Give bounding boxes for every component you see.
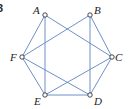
edge-b-f [22, 15, 90, 57]
vertex-label-e: E [33, 95, 41, 107]
vertex-e [43, 93, 47, 97]
vertex-label-c: C [115, 51, 123, 63]
edges-group [22, 15, 112, 95]
vertex-label-a: A [32, 4, 40, 16]
vertex-label-d: D [93, 95, 102, 107]
vertices-group [20, 13, 114, 97]
vertex-c [110, 55, 114, 59]
graph-diagram: ABCDEF [0, 0, 134, 109]
vertex-labels-group: ABCDEF [9, 4, 123, 107]
edge-b-c [90, 15, 112, 57]
vertex-f [20, 55, 24, 59]
vertex-label-b: B [94, 4, 101, 16]
vertex-a [43, 13, 47, 17]
edge-a-f [22, 15, 45, 57]
edge-f-e [22, 57, 45, 95]
vertex-b [88, 13, 92, 17]
vertex-label-f: F [9, 51, 17, 63]
vertex-d [88, 93, 92, 97]
